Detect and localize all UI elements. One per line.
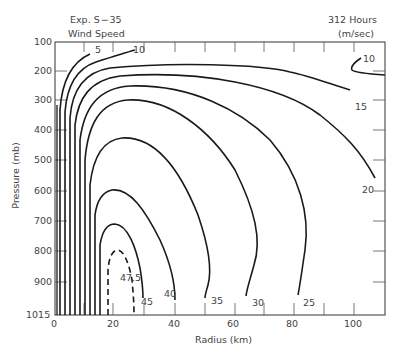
- contour-label: 47.5: [120, 272, 141, 283]
- contour-label: 25: [303, 297, 315, 308]
- contour-plot: [0, 0, 397, 354]
- contour-label: 35: [211, 295, 223, 306]
- contour-label: 30: [252, 297, 264, 308]
- contour-label: 45: [141, 296, 153, 307]
- contour-label: 10: [133, 44, 145, 55]
- contour-label: 15: [355, 101, 367, 112]
- contour-label: 20: [362, 184, 374, 195]
- contour-label: 5: [95, 44, 101, 55]
- contour-label: 10: [363, 53, 375, 64]
- contour-label: 40: [164, 288, 176, 299]
